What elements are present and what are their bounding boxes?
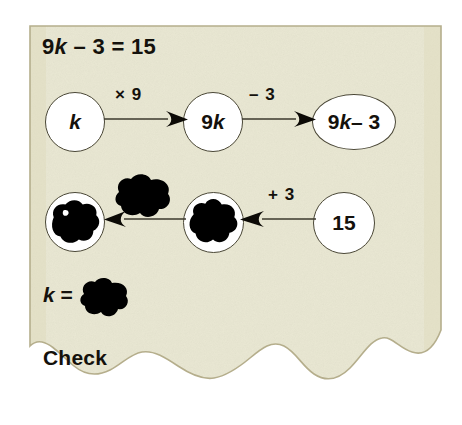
answer-line: k =	[43, 284, 73, 305]
equation-heading: 9k – 3 = 15	[42, 36, 156, 58]
check-label: Check	[43, 347, 107, 368]
operation-label-subtract: – 3	[249, 86, 276, 103]
operation-label-add: + 3	[268, 186, 295, 203]
equation-variable: k	[55, 34, 68, 59]
node-9k-coefficient: 9	[201, 110, 213, 134]
answer-variable: k	[43, 283, 55, 306]
worksheet-content: 9k – 3 = 15 k 9k 9k – 3 × 9 – 3	[0, 0, 462, 425]
arrow-left-add	[240, 208, 316, 230]
node-given-15-label: 15	[332, 211, 355, 235]
node-9k-variable: k	[213, 110, 225, 134]
node-hidden-answer-intermediate	[183, 192, 244, 253]
node-9k: 9k	[183, 92, 243, 152]
node-start-k-label: k	[69, 110, 81, 134]
equation-coefficient: 9	[42, 34, 55, 59]
node-start-k: k	[45, 92, 105, 152]
arrow-right-subtract	[242, 108, 316, 130]
node-9k-minus-3-variable: k	[339, 110, 351, 134]
ink-blot-icon	[46, 193, 104, 251]
arrow-right-multiply	[104, 108, 188, 130]
answer-equals-sign: =	[55, 283, 73, 306]
arrow-left-divide	[104, 208, 186, 230]
node-9k-minus-3-suffix: – 3	[351, 110, 380, 134]
node-9k-minus-3: 9k – 3	[312, 94, 396, 150]
node-9k-minus-3-coefficient: 9	[328, 110, 340, 134]
worksheet-scene: 9k – 3 = 15 k 9k 9k – 3 × 9 – 3	[0, 0, 462, 425]
node-hidden-answer-final	[45, 192, 105, 252]
operation-label-multiply: × 9	[115, 86, 142, 103]
ink-blot-icon	[184, 193, 243, 252]
ink-blot-icon-over-answer	[78, 276, 132, 320]
equation-remainder: – 3 = 15	[67, 34, 156, 59]
node-given-15: 15	[313, 192, 375, 254]
